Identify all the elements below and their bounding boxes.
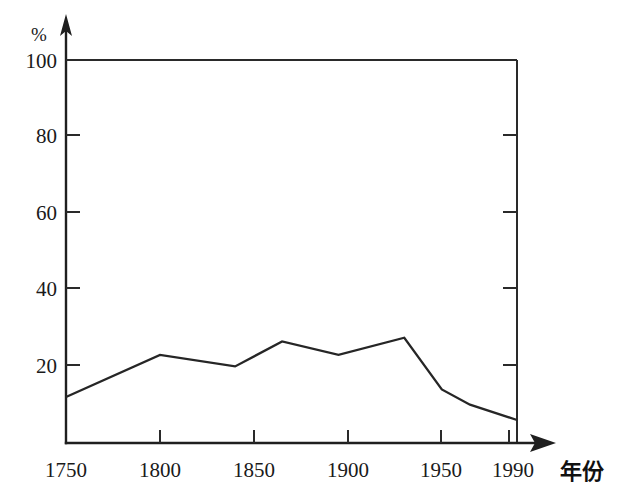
x-axis-title: 年份 xyxy=(560,459,605,484)
line-chart: % 100 80 60 40 20 1750 1800 1850 1900 19… xyxy=(0,0,622,490)
x-axis-tick-label-1750: 1750 xyxy=(45,458,87,482)
y-axis-unit-label: % xyxy=(31,24,47,45)
y-axis-tick-label-80: 80 xyxy=(36,124,57,148)
x-axis-tick-label-1850: 1850 xyxy=(233,458,275,482)
chart-canvas: % 100 80 60 40 20 1750 1800 1850 1900 19… xyxy=(0,0,622,490)
x-axis-tick-label-1990: 1990 xyxy=(492,458,534,482)
y-axis-tick-label-20: 20 xyxy=(36,354,57,378)
x-axis-tick-label-1900: 1900 xyxy=(327,458,369,482)
y-axis-tick-label-60: 60 xyxy=(36,201,57,225)
x-axis-tick-label-1950: 1950 xyxy=(420,458,462,482)
y-axis-tick-label-100: 100 xyxy=(26,49,58,73)
x-axis-tick-label-1800: 1800 xyxy=(139,458,181,482)
data-series-line xyxy=(66,338,517,420)
y-axis-tick-label-40: 40 xyxy=(36,277,57,301)
